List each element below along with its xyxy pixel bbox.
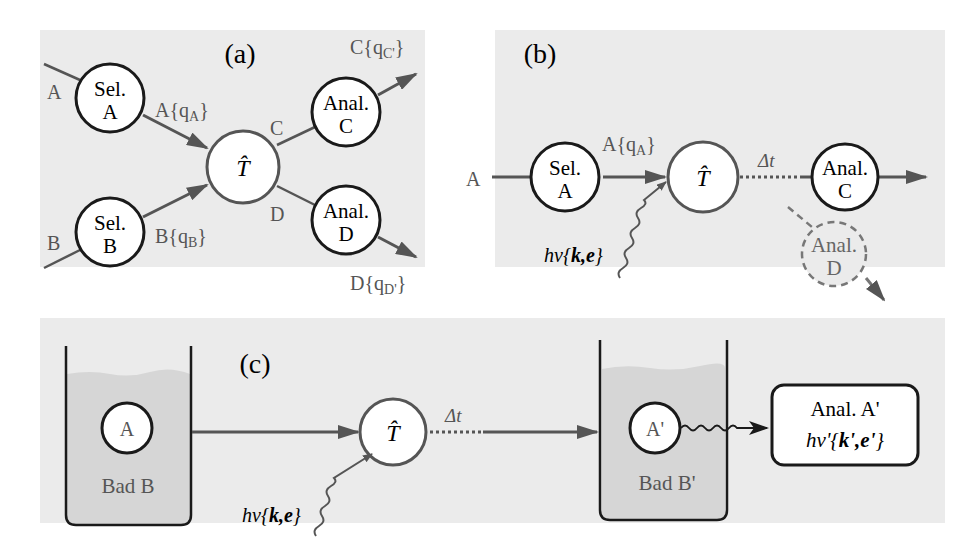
selector-b-line1: Sel. — [94, 211, 126, 235]
particle-a-prime-label: A' — [646, 418, 664, 440]
target-label: T̂ — [236, 155, 251, 181]
analyzer-d-line2: D — [338, 222, 353, 246]
state-a-label: A{qA} — [602, 133, 656, 158]
panel-a: (a) Sel. A Sel. B T̂ Anal. C Anal. D A B… — [44, 36, 416, 297]
beam-c-label: C — [270, 117, 283, 139]
analyzer-a-prime-line1: Anal. A' — [810, 397, 879, 421]
delay-label: Δt — [444, 405, 462, 426]
result-c-label: C{qC'} — [350, 36, 404, 61]
analyzer-a-prime-line2: hv'{k',e'} — [806, 428, 884, 452]
photon-label: hv{k,e} — [544, 244, 603, 266]
arrow-anald-out — [866, 278, 884, 300]
selector-b-line2: B — [103, 234, 117, 258]
selector-a-line1: Sel. — [549, 156, 581, 180]
photon-wavy-arrow — [315, 454, 372, 536]
beam-d-label: D — [270, 203, 284, 225]
selector-a-line2: A — [557, 179, 573, 203]
bath-b-label: Bad B — [101, 474, 154, 498]
target-label: T̂ — [386, 420, 401, 446]
beam-a-label: A — [47, 81, 62, 103]
analyzer-c-line1: Anal. — [323, 91, 369, 115]
panel-a-label: (a) — [224, 38, 255, 69]
beam-a-label: A — [466, 168, 481, 190]
particle-a-label: A — [120, 418, 135, 440]
result-d-label: D{qD'} — [350, 272, 406, 297]
beam-b-label: B — [47, 232, 60, 254]
analyzer-d-line1: Anal. — [323, 199, 369, 223]
panel-c: (c) A Bad B T̂ hv{k,e} Δt A' Bad B' Anal… — [66, 340, 918, 536]
panel-b: (b) A Sel. A T̂ Anal. C Anal. D A{qA} Δt… — [466, 38, 926, 300]
analyzer-c-line1: Anal. — [822, 156, 868, 180]
arrow-analc-out — [378, 74, 416, 95]
bath-b-prime-label: Bad B' — [639, 471, 696, 495]
photon-wavy-arrow — [619, 182, 666, 278]
analyzer-c-line2: C — [838, 179, 852, 203]
state-b-label: B{qB} — [155, 225, 207, 250]
analyzer-c-line2: C — [339, 114, 353, 138]
analyzer-d-line1: Anal. — [811, 233, 857, 257]
dashed-line-to-anald — [788, 207, 812, 227]
panel-c-label: (c) — [239, 348, 270, 379]
panel-b-label: (b) — [524, 38, 557, 69]
beam-a-in-line — [44, 64, 80, 80]
analyzer-d-line2: D — [826, 256, 841, 280]
selector-a-line1: Sel. — [94, 77, 126, 101]
arrow-anald-out — [378, 237, 416, 257]
arrow-selb-to-t — [143, 185, 207, 217]
selector-a-line2: A — [102, 100, 118, 124]
state-a-label: A{qA} — [155, 99, 209, 124]
target-label: T̂ — [696, 165, 711, 191]
photon-label: hv{k,e} — [242, 504, 301, 526]
delay-label: Δt — [757, 150, 775, 171]
